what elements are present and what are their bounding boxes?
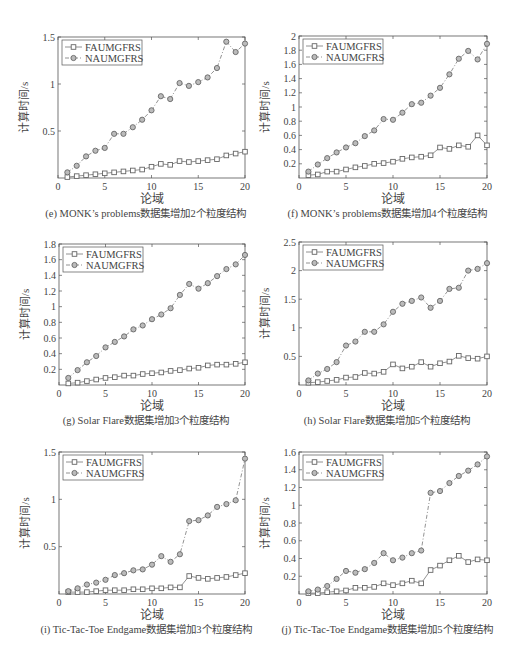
faumgfrs-marker [93,172,98,177]
faumgfrs-marker [159,586,164,591]
naumgfrs-marker [224,266,229,271]
legend: FAUMGFRSNAUMGFRS [303,455,385,480]
x-tick-label: 0 [297,181,302,192]
faumgfrs-marker [438,563,443,568]
faumgfrs-marker [233,151,238,156]
naumgfrs-marker [84,360,89,365]
faumgfrs-marker [391,583,396,588]
y-tick-label: 1 [50,79,55,90]
faumgfrs-marker [122,373,127,378]
naumgfrs-marker [112,131,117,136]
x-tick-label: 20 [482,388,492,399]
faumgfrs-marker [466,356,471,361]
faumgfrs-marker [485,558,490,563]
faumgfrs-marker [243,149,248,154]
chart-e: 051015200.511.5计算时间/s论域(e) MONK’s proble… [0,0,516,670]
y-tick-label: 1.4 [284,73,297,84]
y-tick-label: 1 [291,322,296,333]
faumgfrs-marker [363,585,368,590]
faumgfrs-marker [65,175,70,180]
y-tick-label: 1.5 [284,294,297,305]
y-tick-label: 0.6 [284,130,297,141]
naumgfrs-marker [362,329,367,334]
faumgfrs-marker [466,144,471,149]
chart-i: 051015200.511.5计算时间/s论域(i) Tic-Tac-Toe E… [0,0,516,670]
naumgfrs-marker [437,488,442,493]
y-tick-label: 0.4 [44,348,57,359]
y-axis-label: 计算时间/s [258,497,271,548]
y-tick-label: 1.6 [284,447,297,458]
y-tick-label: 1.8 [284,45,297,56]
faumgfrs-marker [457,354,462,359]
naumgfrs-marker [187,519,192,524]
naumgfrs-marker [75,368,80,373]
faumgfrs-marker [438,361,443,366]
y-tick-label: 1.8 [44,239,57,250]
faumgfrs-marker [113,375,118,380]
faumgfrs-marker [131,587,136,592]
x-tick-label: 10 [147,597,157,608]
naumgfrs-marker [428,93,433,98]
faumgfrs-marker [187,574,192,579]
naumgfrs-marker [196,80,201,85]
chart-f: 051015200.20.40.60.811.21.41.61.82计算时间/s… [0,0,516,670]
faumgfrs-marker [457,143,462,148]
naumgfrs-marker [306,169,311,174]
naumgfrs-marker [159,312,164,317]
faumgfrs-marker [196,159,201,164]
naumgfrs-marker [447,72,452,77]
faumgfrs-marker [243,360,248,365]
naumgfrs-marker [168,306,173,311]
naumgfrs-marker [84,582,89,587]
naumgfrs-marker [334,150,339,155]
x-tick-label: 0 [57,388,62,399]
naumgfrs-marker [233,498,238,503]
y-axis-label: 计算时间/s [17,82,30,133]
x-tick-label: 10 [147,388,157,399]
faumgfrs-marker [215,576,220,581]
y-tick-label: 0.4 [284,553,297,564]
y-tick-label: 1.4 [284,464,297,475]
plot-area-frame [59,452,245,594]
faumgfrs-marker [103,588,108,593]
x-tick-label: 5 [103,388,108,399]
naumgfrs-line [68,459,245,592]
faumgfrs-marker [316,380,321,385]
chart-j: 051015200.20.40.60.811.21.41.6计算时间/s论域(j… [0,0,516,670]
x-tick-label: 5 [344,388,349,399]
faumgfrs-marker [363,164,368,169]
naumgfrs-marker [122,334,127,339]
y-axis-label: 计算时间/s [18,289,31,340]
faumgfrs-marker [122,588,127,593]
x-tick-label: 20 [482,181,492,192]
chart-caption: (f) MONK’s problems数据集增加4个粒度结构 [287,207,486,220]
faumgfrs-marker [353,165,358,170]
naumgfrs-marker [149,562,154,567]
faumgfrs-marker [224,575,229,580]
faumgfrs-marker [447,558,452,563]
x-tick-label: 15 [435,597,445,608]
naumgfrs-marker [343,568,348,573]
faumgfrs-marker [344,167,349,172]
faumgfrs-marker [475,557,480,562]
y-tick-label: 1.4 [44,270,57,281]
naumgfrs-marker [242,41,247,46]
legend-entry-naumgfrs: NAUMGFRS [86,468,145,479]
x-axis-label: 论域 [140,399,164,413]
naumgfrs-marker [409,551,414,556]
faumgfrs-marker [131,168,136,173]
naumgfrs-marker [215,274,220,279]
faumgfrs-marker [224,153,229,158]
faumgfrs-marker [428,153,433,158]
faumgfrs-marker [140,587,145,592]
y-tick-label: 1.5 [43,32,56,43]
faumgfrs-marker [196,576,201,581]
naumgfrs-marker [177,552,182,557]
x-tick-label: 0 [56,181,61,192]
naumgfrs-marker [66,375,71,380]
naumgfrs-marker [437,298,442,303]
naumgfrs-marker [400,555,405,560]
faumgfrs-line [68,573,245,592]
naumgfrs-marker [325,366,330,371]
y-tick-label: 1 [51,301,56,312]
